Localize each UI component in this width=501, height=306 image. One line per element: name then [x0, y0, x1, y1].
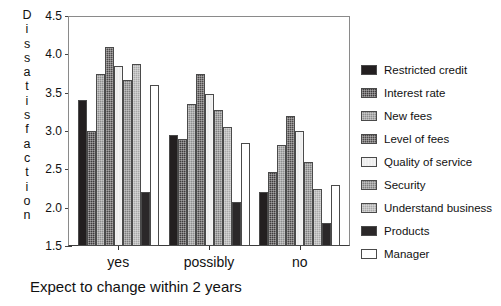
y-axis-tick-label: 2.0	[26, 201, 62, 215]
bar-group: possibly	[169, 16, 250, 246]
legend-label: Products	[384, 225, 429, 237]
bar	[141, 192, 150, 246]
y-axis-tick-mark	[65, 246, 72, 247]
bar-group: yes	[78, 16, 159, 246]
bar	[114, 66, 123, 246]
legend-item: New fees	[361, 104, 501, 127]
y-axis-tick-label: 3.5	[26, 86, 62, 100]
x-axis-tick-label: yes	[107, 254, 129, 270]
bar-group-bars	[169, 16, 250, 246]
legend-item: Products	[361, 219, 501, 242]
x-axis-tick-mark	[209, 246, 210, 250]
bar	[78, 100, 87, 246]
bar	[178, 139, 187, 246]
bar	[150, 85, 159, 246]
x-axis-tick-mark	[300, 246, 301, 250]
legend-label: Understand business	[384, 202, 492, 214]
legend-swatch	[361, 65, 377, 75]
bar	[313, 189, 322, 246]
bar	[232, 202, 241, 246]
legend-swatch	[361, 249, 377, 259]
bar	[196, 74, 205, 247]
legend-label: Security	[384, 179, 426, 191]
legend: Restricted creditInterest rateNew feesLe…	[361, 58, 501, 265]
bar	[259, 192, 268, 246]
bar	[205, 94, 214, 246]
legend-label: New fees	[384, 110, 432, 122]
legend-item: Understand business	[361, 196, 501, 219]
bar-chart: Dissatisfaction 1.52.02.53.03.54.04.5 ye…	[0, 0, 501, 306]
bar	[96, 74, 105, 247]
x-axis-tick-mark	[118, 246, 119, 250]
bar	[223, 127, 232, 246]
bar	[241, 143, 250, 247]
legend-label: Quality of service	[384, 156, 472, 168]
y-axis-title-letter: i	[18, 22, 36, 36]
bar	[268, 172, 277, 246]
legend-label: Manager	[384, 248, 429, 260]
plot-area: yespossiblyno	[68, 16, 350, 246]
legend-label: Restricted credit	[384, 64, 467, 76]
legend-item: Security	[361, 173, 501, 196]
legend-item: Interest rate	[361, 81, 501, 104]
legend-label: Interest rate	[384, 87, 445, 99]
x-axis-tick-label: possibly	[184, 254, 235, 270]
bar-group-bars	[259, 16, 340, 246]
x-axis-tick-label: no	[292, 254, 308, 270]
bar	[132, 64, 141, 246]
y-axis-title: Dissatisfaction	[18, 8, 36, 222]
y-axis-title-letter: a	[18, 137, 36, 151]
legend-label: Level of fees	[384, 133, 449, 145]
bar	[295, 131, 304, 246]
bar	[169, 135, 178, 246]
legend-swatch	[361, 157, 377, 167]
bar-group-bars	[78, 16, 159, 246]
legend-item: Quality of service	[361, 150, 501, 173]
legend-swatch	[361, 134, 377, 144]
y-axis-tick-label: 2.5	[26, 162, 62, 176]
legend-swatch	[361, 180, 377, 190]
bar	[105, 47, 114, 246]
y-axis-tick-label: 4.5	[26, 9, 62, 23]
legend-swatch	[361, 203, 377, 213]
y-axis-title-letter: s	[18, 108, 36, 122]
y-axis-title-letter: i	[18, 180, 36, 194]
bar	[187, 104, 196, 246]
legend-item: Manager	[361, 242, 501, 265]
bar-group: no	[259, 16, 340, 246]
legend-swatch	[361, 226, 377, 236]
bar	[304, 162, 313, 246]
legend-swatch	[361, 88, 377, 98]
y-axis-tick-label: 4.0	[26, 47, 62, 61]
y-axis-tick-label: 3.0	[26, 124, 62, 138]
bar	[87, 131, 96, 246]
bar	[277, 145, 286, 246]
y-axis-tick-label: 1.5	[26, 239, 62, 253]
legend-item: Level of fees	[361, 127, 501, 150]
legend-swatch	[361, 111, 377, 121]
bar	[123, 80, 132, 246]
bar	[286, 116, 295, 246]
legend-item: Restricted credit	[361, 58, 501, 81]
bar	[214, 110, 223, 246]
y-axis-title-letter: a	[18, 65, 36, 79]
bar	[331, 185, 340, 246]
x-axis-title: Expect to change within 2 years	[30, 278, 242, 295]
bar	[322, 223, 331, 246]
